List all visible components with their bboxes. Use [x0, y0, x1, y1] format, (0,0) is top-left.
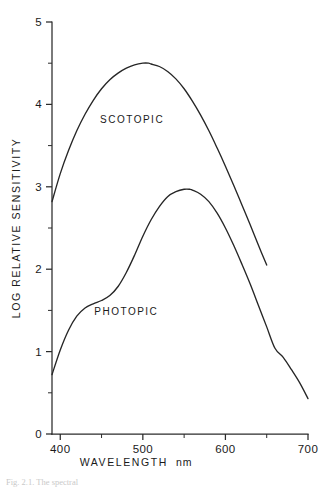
- figure-container: 012345 400500600700 SCOTOPIC PHOTOPIC WA…: [0, 0, 323, 488]
- luminous-efficiency-chart: 012345 400500600700 SCOTOPIC PHOTOPIC WA…: [0, 0, 323, 488]
- chart-background: [0, 0, 323, 488]
- y-tick-label: 3: [35, 181, 42, 193]
- y-axis-title: LOG RELATIVE SENSITIVITY: [10, 138, 22, 319]
- x-tick-label: 400: [50, 443, 70, 455]
- y-tick-label: 2: [35, 263, 42, 275]
- photopic-label: PHOTOPIC: [94, 306, 158, 317]
- x-axis-title: WAVELENGTH: [80, 456, 168, 468]
- y-tick-label: 0: [35, 428, 42, 440]
- y-tick-label: 5: [35, 16, 42, 28]
- scotopic-label: SCOTOPIC: [100, 114, 164, 125]
- y-tick-label: 4: [35, 98, 42, 110]
- x-tick-label: 700: [298, 443, 318, 455]
- x-axis-unit-label: nm: [176, 456, 192, 468]
- x-tick-label: 500: [133, 443, 153, 455]
- x-tick-label: 600: [215, 443, 235, 455]
- caption-remnant: Fig. 2.1. The spectral: [6, 478, 156, 487]
- y-tick-label: 1: [35, 346, 42, 358]
